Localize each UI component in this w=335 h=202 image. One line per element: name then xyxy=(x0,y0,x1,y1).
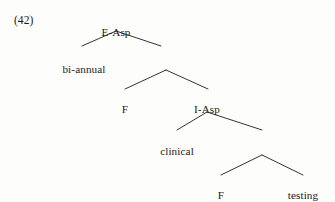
branch-fp2-left xyxy=(221,155,262,175)
tree-node-clinical: clinical xyxy=(160,146,194,157)
branch-fp2-right xyxy=(262,155,303,175)
branch-fp1-right xyxy=(166,70,208,89)
tree-node-e-asp: E-Asp xyxy=(101,27,130,38)
tree-node-testing: testing xyxy=(288,190,319,201)
branch-fp1-left xyxy=(125,70,166,89)
tree-node-i-asp: I-Asp xyxy=(194,104,220,115)
tree-branch-lines xyxy=(0,0,335,202)
syntax-tree-figure: (42) E-Aspbi-annualFI-AspclinicalFtestin… xyxy=(0,0,335,202)
tree-node-f2: F xyxy=(218,190,224,201)
tree-node-f1: F xyxy=(122,104,128,115)
tree-node-bi-annual: bi-annual xyxy=(62,64,105,75)
